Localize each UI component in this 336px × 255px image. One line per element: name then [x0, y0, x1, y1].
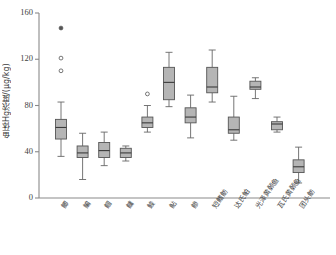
y-tick-label: 40	[7, 146, 33, 156]
boxplot-box	[207, 50, 218, 102]
y-tick-label: 80	[7, 100, 33, 110]
boxplot-figure: 鱼体Hg浓度/(μg/kg) 04080120160 鲫鳊鲴鳙鮻鲇鲹短鳍鲂达氏鲌…	[0, 0, 336, 255]
y-tick-label: 0	[7, 192, 33, 202]
boxplot-box	[250, 78, 261, 99]
plot-area	[0, 0, 336, 255]
boxplot-box	[56, 26, 67, 156]
boxplot-box	[120, 146, 131, 161]
boxplot-box	[185, 95, 196, 138]
y-tick-label: 160	[7, 7, 33, 17]
y-tick-label: 120	[7, 53, 33, 63]
boxplot-box	[164, 52, 175, 106]
boxplot-box	[99, 132, 110, 166]
boxplot-box	[228, 96, 239, 140]
boxplot-box	[142, 92, 153, 132]
boxplot-box	[272, 117, 283, 132]
boxplot-box	[77, 133, 88, 179]
axes	[35, 13, 330, 198]
